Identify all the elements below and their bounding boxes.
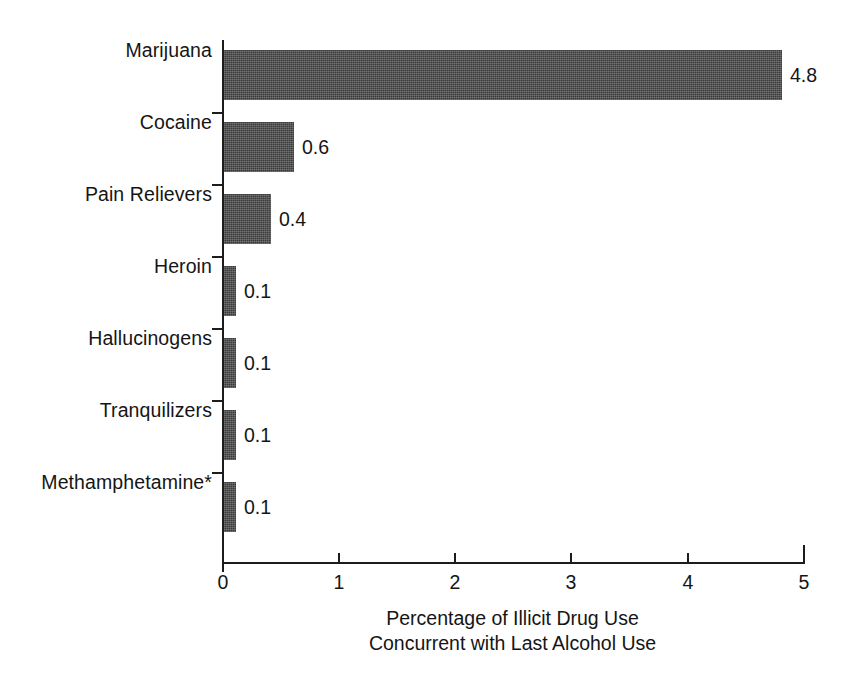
x-axis-title-line-1: Percentage of Illicit Drug Use (222, 606, 803, 631)
bar-tranquilizers (224, 410, 236, 460)
chart-row-heroin: Heroin 0.1 (0, 241, 843, 313)
chart-row-cocaine: Cocaine 0.6 (0, 97, 843, 169)
category-label: Hallucinogens (0, 327, 212, 349)
category-label: Marijuana (0, 39, 212, 61)
y-axis-line (222, 40, 224, 564)
category-label: Tranquilizers (0, 399, 212, 421)
bar-hallucinogens (224, 338, 236, 388)
x-axis-title-line-2: Concurrent with Last Alcohol Use (222, 631, 803, 656)
bar-value-label: 0.1 (244, 352, 271, 374)
category-label: Heroin (0, 255, 212, 277)
y-axis-tick (212, 112, 223, 114)
y-axis-tick (212, 184, 223, 186)
bar-methamphetamine (224, 482, 236, 532)
chart-row-methamphetamine: Methamphetamine* 0.1 (0, 457, 843, 529)
x-axis-tick-label: 3 (541, 570, 601, 594)
x-axis-tick-4 (687, 553, 689, 563)
bar-pain-relievers (224, 194, 271, 244)
x-axis-tick-3 (570, 553, 572, 563)
chart-row-pain-relievers: Pain Relievers 0.4 (0, 169, 843, 241)
category-label: Pain Relievers (0, 183, 212, 205)
chart-row-hallucinogens: Hallucinogens 0.1 (0, 313, 843, 385)
category-label: Methamphetamine* (0, 471, 212, 493)
bar-cocaine (224, 122, 294, 172)
chart-row-tranquilizers: Tranquilizers 0.1 (0, 385, 843, 457)
bar-marijuana (224, 50, 782, 100)
bar-value-label: 0.1 (244, 496, 271, 518)
y-axis-tick (212, 472, 223, 474)
y-axis-tick (212, 328, 223, 330)
x-axis-tick-label: 2 (425, 570, 485, 594)
x-axis-tick-label: 5 (774, 570, 834, 594)
chart-row-marijuana: Marijuana 4.8 (0, 25, 843, 97)
x-axis-tick-label: 0 (193, 570, 253, 594)
bar-chart: Marijuana 4.8 Cocaine 0.6 Pain Relievers… (0, 0, 843, 684)
x-axis-tick-2 (454, 553, 456, 563)
bar-value-label: 0.1 (244, 280, 271, 302)
x-axis-tick-1 (338, 553, 340, 563)
category-label: Cocaine (0, 111, 212, 133)
bar-value-label: 0.6 (302, 136, 329, 158)
x-axis-title: Percentage of Illicit Drug Use Concurren… (222, 606, 803, 656)
bar-value-label: 0.4 (279, 208, 306, 230)
x-axis-tick-label: 1 (309, 570, 369, 594)
bar-heroin (224, 266, 236, 316)
bar-value-label: 0.1 (244, 424, 271, 446)
y-axis-tick (212, 400, 223, 402)
x-axis-tick-label: 4 (658, 570, 718, 594)
x-axis-tick-5 (803, 545, 805, 564)
y-axis-tick (212, 256, 223, 258)
x-axis-line (222, 562, 804, 564)
bar-value-label: 4.8 (790, 64, 817, 86)
